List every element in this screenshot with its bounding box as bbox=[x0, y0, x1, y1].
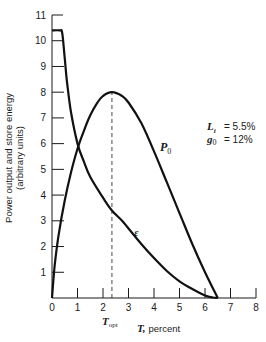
epsilon-curve bbox=[52, 30, 218, 298]
x-tick-label: 0 bbox=[49, 302, 55, 313]
y-tick-label: 2 bbox=[40, 241, 46, 252]
x-axis-title: T,percent bbox=[137, 322, 181, 334]
y-tick-label: 5 bbox=[40, 164, 46, 175]
chart-plot: Power output and store energy (arbitrary… bbox=[0, 0, 266, 342]
y-axis-title-line2: (arbitrary units) bbox=[14, 126, 25, 190]
y-tick-label: 8 bbox=[40, 87, 46, 98]
y-tick-label: 1 bbox=[40, 267, 46, 278]
x-tick-label: 6 bbox=[202, 302, 208, 313]
epsilon-label: ε bbox=[134, 226, 139, 238]
g0-value: = 12% bbox=[224, 134, 253, 145]
p0-curve bbox=[52, 92, 218, 298]
x-tick-label: 8 bbox=[253, 302, 259, 313]
y-ticks: 1234567891011 bbox=[35, 10, 64, 278]
y-tick-label: 11 bbox=[36, 10, 47, 21]
x-tick-label: 2 bbox=[100, 302, 106, 313]
y-tick-label: 6 bbox=[40, 138, 46, 149]
t-opt-label: Topt bbox=[102, 315, 118, 329]
x-ticks: 012345678 bbox=[49, 288, 259, 313]
li-value: = 5.5% bbox=[224, 121, 256, 132]
x-tick-label: 3 bbox=[126, 302, 132, 313]
x-tick-label: 4 bbox=[151, 302, 157, 313]
x-tick-label: 7 bbox=[228, 302, 234, 313]
x-tick-label: 1 bbox=[75, 302, 81, 313]
y-tick-label: 3 bbox=[40, 215, 46, 226]
g0-label: g0 bbox=[206, 133, 217, 147]
x-tick-label: 5 bbox=[177, 302, 183, 313]
y-tick-label: 9 bbox=[40, 61, 46, 72]
y-axis-title: Power output and store energy (arbitrary… bbox=[3, 93, 25, 223]
y-tick-label: 7 bbox=[40, 112, 46, 123]
y-tick-label: 10 bbox=[35, 35, 47, 46]
y-axis-title-line1: Power output and store energy bbox=[3, 93, 14, 223]
y-tick-label: 4 bbox=[40, 190, 46, 201]
p0-label: P0 bbox=[160, 140, 171, 156]
